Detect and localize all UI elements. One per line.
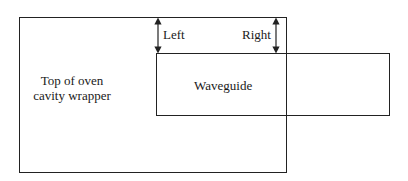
left-dimension-label: Left [163, 27, 185, 42]
waveguide-label: Waveguide [194, 78, 252, 93]
oven-label-line-2: cavity wrapper [28, 88, 116, 103]
oven-cavity-wrapper-label: Top of oven cavity wrapper [28, 73, 116, 103]
oven-label-line-1: Top of oven [28, 73, 116, 88]
right-dimension-label: Right [242, 27, 271, 42]
